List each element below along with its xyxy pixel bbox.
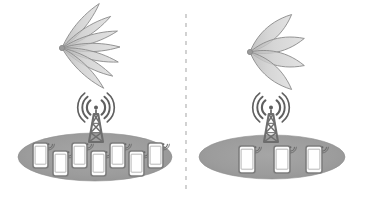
- signal-arc-left-3: [78, 93, 85, 122]
- beam-apex: [59, 45, 64, 50]
- narrow-multi-lobe-beam: [59, 4, 120, 89]
- beam-apex: [247, 49, 252, 54]
- phone-screen: [112, 146, 123, 164]
- panel-left: [18, 4, 172, 181]
- signal-arc-right-3: [282, 93, 289, 122]
- phone-screen: [276, 149, 288, 169]
- signal-arc-right-1: [277, 100, 280, 114]
- phone-screen: [241, 149, 253, 169]
- signal-arc-right-1: [102, 100, 105, 114]
- cell-tower: [253, 93, 290, 142]
- phone-screen: [131, 154, 142, 172]
- phone-signal-dot: [87, 143, 89, 145]
- diagram-canvas: [0, 0, 366, 200]
- phone-screen: [150, 146, 161, 164]
- signal-arc-left-3: [253, 93, 260, 122]
- phone-signal-dot: [290, 146, 292, 148]
- device-group: [239, 146, 328, 173]
- phone-signal-dot: [255, 146, 257, 148]
- signal-arc-right-3: [107, 93, 114, 122]
- phone-signal-dot: [125, 143, 127, 145]
- beamforming-comparison-diagram: [0, 0, 366, 200]
- phone-signal-dot: [48, 143, 50, 145]
- signal-arc-left-1: [262, 100, 265, 114]
- phone-screen: [74, 146, 85, 164]
- phone-screen: [55, 154, 66, 172]
- signal-origin-dot: [269, 106, 273, 110]
- phone-screen: [93, 154, 104, 172]
- signal-arc-left-1: [87, 100, 90, 114]
- wide-multi-lobe-beam: [247, 15, 304, 90]
- panels-group: [18, 4, 345, 181]
- phone-screen: [35, 146, 46, 164]
- phone-signal-dot: [144, 151, 146, 153]
- phone-signal-dot: [163, 143, 165, 145]
- phone-screen: [308, 149, 320, 169]
- panel-right: [199, 15, 345, 179]
- phone-signal-dot: [106, 151, 108, 153]
- signal-origin-dot: [94, 106, 98, 110]
- phone-signal-dot: [68, 151, 70, 153]
- phone-signal-dot: [322, 146, 324, 148]
